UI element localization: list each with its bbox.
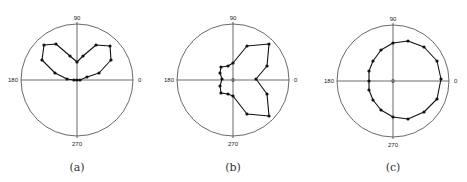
data-point [265,64,268,67]
label-0: 0 [294,77,298,83]
label-270: 270 [388,142,399,148]
data-point [406,117,409,120]
label-180: 180 [324,78,335,84]
data-point [379,108,382,111]
data-point [109,58,112,61]
label-90: 90 [230,15,237,21]
label-180: 180 [164,77,175,83]
data-point [218,71,221,74]
data-point [254,77,257,80]
data-point [391,115,394,118]
polar-plots-figure: 902701800(a)9027018000(b)9027018000(c) [0,0,467,182]
label-0: 0 [138,77,142,83]
data-point [391,41,394,44]
panel-caption: (c) [386,161,401,174]
data-point [265,92,268,95]
polar-plot-c: 9027018000(c) [324,16,458,174]
panel-caption: (b) [225,161,241,174]
data-point [219,91,222,94]
data-point [94,43,97,46]
data-point [108,44,111,47]
data-point [75,60,78,63]
data-point [81,54,84,57]
data-point [54,42,57,45]
data-point [218,84,221,87]
data-point [78,78,81,81]
data-point [65,77,68,80]
polar-plot-a: 902701800(a) [8,15,142,174]
label-270: 270 [72,141,83,147]
data-point [231,61,234,64]
data-point [245,112,248,115]
data-point [72,78,75,81]
data-point [226,64,229,67]
label-90: 90 [74,15,81,21]
data-point [53,71,56,74]
label-270: 270 [228,141,239,147]
data-point [245,44,248,47]
data-point [68,54,71,57]
data-point [406,39,409,42]
label-180: 180 [8,77,19,83]
data-point [367,69,370,72]
data-point [422,110,425,113]
data-point [231,94,234,97]
data-point [371,59,374,62]
data-point [379,48,382,51]
data-point [219,65,222,68]
data-point [75,78,78,81]
data-point [226,92,229,95]
data-point [367,88,370,91]
data-point [42,43,45,46]
data-point [220,77,223,80]
data-point [367,79,370,82]
data-point [435,59,438,62]
data-point [439,77,442,80]
data-point [267,42,270,45]
polar-plot-b: 9027018000(b) [164,15,298,174]
label-0: 0 [454,78,458,84]
data-point [40,58,43,61]
data-series-line [369,41,441,119]
label-90: 90 [390,16,397,22]
data-point [422,45,425,48]
data-point [371,98,374,101]
data-point [267,114,270,117]
data-point [97,71,100,74]
panel-caption: (a) [69,161,84,174]
data-point [435,97,438,100]
data-point [85,75,88,78]
